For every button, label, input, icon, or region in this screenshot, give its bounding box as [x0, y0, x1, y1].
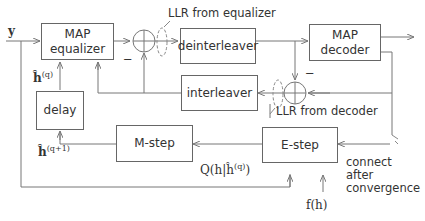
llr-decoder-label: LLR from decoder [276, 104, 378, 118]
delay-label: delay [44, 103, 77, 118]
map-equalizer-line2: equalizer [50, 42, 105, 57]
e-step-label: E-step [281, 138, 319, 153]
input-y-label: y [8, 24, 15, 38]
llr-equalizer-label: LLR from equalizer [168, 6, 276, 20]
h-q-superscript: (q) [42, 70, 53, 79]
interleaver-label: interleaver [187, 86, 252, 101]
f-h-label: f(h) [306, 198, 328, 212]
h-hat: ĥ [33, 71, 42, 85]
h-q1-label: ĥ(q+1) [38, 144, 70, 159]
e-step-block: E-step [262, 127, 338, 163]
m-step-block: M-step [116, 125, 193, 162]
connect-after-convergence-label: connect after convergence [346, 156, 420, 195]
q-function-label: Q(h|ĥ(q)) [200, 162, 250, 177]
delay-block: delay [36, 91, 84, 130]
deinterleaver-block: deinterleaver [180, 28, 256, 64]
m-step-label: M-step [134, 136, 175, 151]
q-func-text: Q(h|ĥ [200, 163, 234, 177]
h-hat: ĥ [38, 145, 47, 159]
q-func-end: ) [245, 163, 250, 177]
h-q1-superscript: (q+1) [47, 144, 70, 153]
minus-sign-mid: − [305, 66, 315, 80]
interleaver-block: interleaver [181, 75, 258, 111]
deinterleaver-label: deinterleaver [178, 39, 258, 54]
q-func-superscript: (q) [234, 162, 245, 171]
h-q-label: ĥ(q) [33, 70, 53, 85]
map-decoder-block: MAP decoder [309, 24, 381, 61]
map-equalizer-block: MAP equalizer [41, 23, 114, 60]
map-decoder-line2: decoder [321, 43, 370, 58]
minus-sign-top: − [123, 52, 133, 66]
connect-line3: convergence [346, 182, 420, 195]
map-equalizer-line1: MAP [65, 27, 91, 42]
map-decoder-line1: MAP [332, 28, 358, 43]
